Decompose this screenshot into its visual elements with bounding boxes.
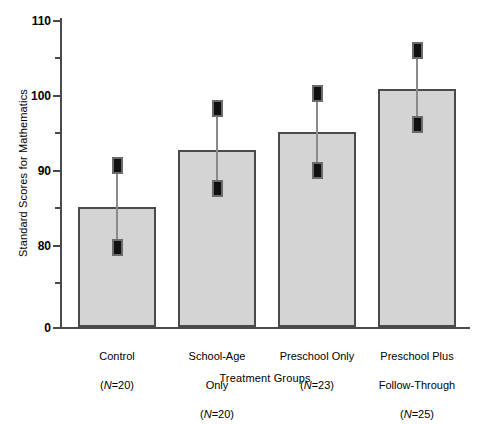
error-bar-line [416,50,418,124]
y-tick-label-100: 100 [31,90,51,102]
error-bar-cap-upper [112,157,123,174]
y-tick-75 [60,282,61,284]
y-tick-label-110: 110 [32,15,51,27]
error-bar-cap-upper [312,85,323,102]
category-line-1: Preschool Plus [357,349,477,364]
error-bar-line [216,108,218,188]
y-tick-label-80: 80 [38,240,51,252]
x-axis-line [60,327,470,329]
y-tick-95 [60,132,61,134]
error-bar-cap-lower [412,116,423,133]
error-bar-cap-lower [312,162,323,179]
error-bar-cap-upper [412,42,423,59]
y-tick-label-90: 90 [38,165,51,177]
category-line-3: (N=20) [157,407,277,422]
x-axis-title: Treatment Groups [60,372,470,384]
y-axis-title: Standard Scores for Mathematics [14,8,32,338]
error-bar-line [316,93,318,170]
y-tick-85 [60,207,61,209]
category-line-3: (N=25) [357,407,477,422]
y-tick-110: 110 [60,20,61,22]
y-tick-0: 0 [60,327,61,329]
error-bar-cap-lower [112,239,123,256]
plot-area: 110 100 90 80 0 [60,18,470,328]
y-tick-100: 100 [60,95,61,97]
y-tick-label-0: 0 [44,322,51,334]
error-bar-cap-upper [212,100,223,117]
y-tick-105 [60,57,61,59]
y-tick-80: 80 [60,245,61,247]
error-bar-cap-lower [212,180,223,197]
error-bar-line [116,165,118,247]
y-tick-90: 90 [60,170,61,172]
